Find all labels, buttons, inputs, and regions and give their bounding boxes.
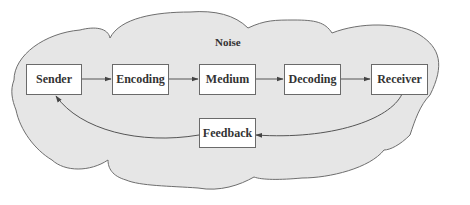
diagram-canvas (0, 0, 470, 205)
noise-label: Noise (215, 36, 241, 48)
node-encoding: Encoding (112, 64, 169, 95)
node-medium: Medium (199, 64, 256, 95)
node-decoding: Decoding (284, 64, 341, 95)
node-feedback: Feedback (199, 118, 256, 148)
node-sender: Sender (26, 64, 82, 95)
node-receiver: Receiver (371, 64, 428, 95)
